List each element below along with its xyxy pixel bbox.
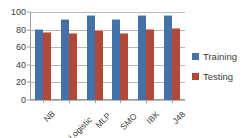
legend-label: Training [203, 52, 237, 62]
bar-group [30, 12, 56, 100]
bar-training [35, 29, 43, 100]
x-tick-label: J48 [171, 110, 187, 126]
x-tick-mark [172, 100, 173, 103]
x-tick-mark [43, 100, 44, 103]
bar-training [112, 19, 120, 100]
bar-group [107, 12, 133, 100]
bar-testing [146, 29, 154, 100]
bar-training [61, 19, 69, 100]
x-tick-label: Logistic [67, 115, 93, 138]
bar-testing [95, 30, 103, 100]
bar-testing [120, 33, 128, 100]
bar-training [164, 15, 172, 100]
x-tick-mark [69, 100, 70, 103]
legend-swatch-icon [192, 53, 199, 60]
y-axis: 020406080100 [0, 12, 30, 100]
bar-testing [69, 33, 77, 100]
bar-testing [172, 28, 180, 100]
bar-testing [43, 32, 51, 100]
x-tick-label: NB [42, 109, 56, 123]
bar-group [82, 12, 108, 100]
legend-label: Testing [203, 72, 233, 82]
y-tick-label: 20 [16, 78, 26, 87]
bar-group [56, 12, 82, 100]
legend-swatch-icon [192, 73, 199, 80]
x-tick-label: IBK [145, 110, 161, 126]
y-tick-label: 0 [21, 96, 26, 105]
bar-chart: 020406080100 NBLogisticMLPSMOIBKJ48 Trai… [0, 0, 246, 138]
x-axis: NBLogisticMLPSMOIBKJ48 [30, 100, 185, 138]
bar-group [133, 12, 159, 100]
bar-group [159, 12, 185, 100]
y-tick-label: 60 [16, 43, 26, 52]
bar-training [138, 15, 146, 100]
x-tick-label: MLP [94, 111, 112, 129]
x-tick-mark [95, 100, 96, 103]
x-tick-mark [120, 100, 121, 103]
x-tick-mark [146, 100, 147, 103]
legend: TrainingTesting [192, 52, 237, 81]
y-tick-label: 40 [16, 60, 26, 69]
bar-groups [30, 12, 185, 100]
y-tick-label: 100 [11, 8, 26, 17]
legend-item-testing[interactable]: Testing [192, 72, 237, 82]
y-tick-label: 80 [16, 25, 26, 34]
legend-item-training[interactable]: Training [192, 52, 237, 62]
x-tick-label: SMO [119, 112, 139, 132]
bar-training [87, 15, 95, 100]
plot-area [30, 12, 185, 100]
